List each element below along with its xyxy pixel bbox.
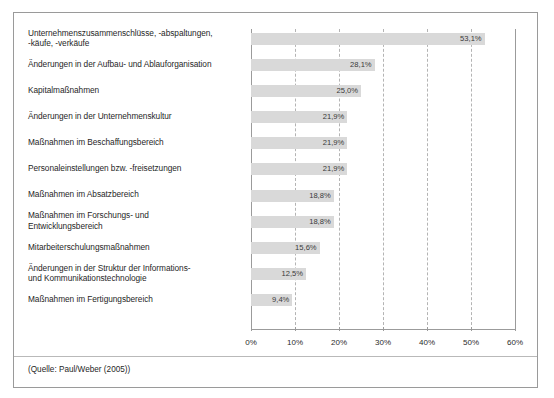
- axis-tick: [471, 327, 472, 331]
- x-tick-label: 40%: [419, 338, 435, 347]
- gridline: [383, 29, 384, 330]
- category-label-line: Maßnahmen im Forschungs- und: [28, 210, 250, 220]
- bar-value-label: 18,8%: [251, 190, 334, 202]
- category-label-line: und Kommunikationstechnologie: [28, 273, 250, 283]
- category-label-line: Mitarbeiterschulungsmaßnahmen: [28, 242, 250, 252]
- plot-area: 53,1%28,1%25,0%21,9%21,9%21,9%18,8%18,8%…: [251, 29, 515, 330]
- bar-value-label: 21,9%: [251, 111, 347, 123]
- x-tick-label: 10%: [287, 338, 303, 347]
- bar-value-label: 9,4%: [251, 294, 292, 306]
- x-tick-label: 20%: [331, 338, 347, 347]
- bar-value-label: 25,0%: [251, 85, 361, 97]
- x-tick-label: 50%: [463, 338, 479, 347]
- bar-value-label: 18,8%: [251, 216, 334, 228]
- bar-chart: Unternehmenszusammenschlüsse, -abspaltun…: [14, 13, 537, 344]
- bar-value-label: 28,1%: [251, 59, 375, 71]
- category-label: Änderungen in der Unternehmenskultur: [28, 111, 250, 121]
- category-label-line: Änderungen in der Unternehmenskultur: [28, 111, 250, 121]
- category-label: Kapitalmaßnahmen: [28, 85, 250, 95]
- category-label: Änderungen in der Struktur der Informati…: [28, 263, 250, 283]
- category-label-line: Maßnahmen im Fertigungsbereich: [28, 294, 250, 304]
- category-label: Maßnahmen im Absatzbereich: [28, 189, 250, 199]
- bar-value-label: 15,6%: [251, 242, 320, 254]
- category-label-line: Kapitalmaßnahmen: [28, 85, 250, 95]
- bar-value-label: 12,5%: [251, 268, 306, 280]
- category-label: Mitarbeiterschulungsmaßnahmen: [28, 242, 250, 252]
- category-label: Maßnahmen im Beschaffungsbereich: [28, 137, 250, 147]
- bar-value-label: 53,1%: [251, 33, 485, 45]
- category-label-column: Unternehmenszusammenschlüsse, -abspaltun…: [28, 13, 250, 344]
- axis-tick: [383, 327, 384, 331]
- category-label-line: -käufe, -verkäufe: [28, 38, 250, 48]
- category-label-line: Entwicklungsbereich: [28, 221, 250, 231]
- x-tick-label: 30%: [375, 338, 391, 347]
- category-label: Maßnahmen im Forschungs- undEntwicklungs…: [28, 210, 250, 230]
- category-label: Unternehmenszusammenschlüsse, -abspaltun…: [28, 28, 250, 48]
- gridline: [515, 29, 516, 330]
- category-label: Änderungen in der Aufbau- und Ablauforga…: [28, 59, 250, 69]
- axis-tick: [251, 327, 252, 331]
- x-tick-label: 60%: [507, 338, 523, 347]
- source-section: (Quelle: Paul/Weber (2005)): [14, 356, 537, 389]
- gridline: [339, 29, 340, 330]
- gridline: [295, 29, 296, 330]
- category-label-line: Maßnahmen im Absatzbereich: [28, 189, 250, 199]
- axis-tick: [427, 327, 428, 331]
- category-label-line: Änderungen in der Struktur der Informati…: [28, 263, 250, 273]
- axis-tick: [339, 327, 340, 331]
- category-label: Maßnahmen im Fertigungsbereich: [28, 294, 250, 304]
- x-axis-tick-labels: 0%10%20%30%40%50%60%: [251, 338, 515, 350]
- category-label-line: Maßnahmen im Beschaffungsbereich: [28, 137, 250, 147]
- bar-value-label: 21,9%: [251, 163, 347, 175]
- category-label: Personaleinstellungen bzw. -freisetzunge…: [28, 163, 250, 173]
- source-note: (Quelle: Paul/Weber (2005)): [28, 365, 130, 374]
- figure-panel: Unternehmenszusammenschlüsse, -abspaltun…: [13, 12, 538, 388]
- category-label-line: Unternehmenszusammenschlüsse, -abspaltun…: [28, 28, 250, 38]
- bar-value-label: 21,9%: [251, 137, 347, 149]
- x-tick-label: 0%: [245, 338, 257, 347]
- axis-tick: [295, 327, 296, 331]
- axis-tick: [515, 327, 516, 331]
- gridline: [427, 29, 428, 330]
- gridline: [471, 29, 472, 330]
- category-label-line: Änderungen in der Aufbau- und Ablauforga…: [28, 59, 250, 69]
- category-label-line: Personaleinstellungen bzw. -freisetzunge…: [28, 163, 250, 173]
